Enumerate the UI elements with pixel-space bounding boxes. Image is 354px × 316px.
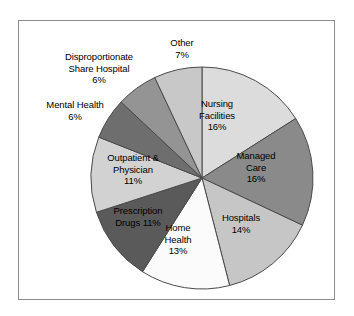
- slice-label-nursing-facilities: Nursing Facilities 16%: [186, 98, 248, 133]
- slice-label-prescription-drugs: Prescription Drugs 11%: [103, 205, 173, 228]
- figure-container: Nursing Facilities 16% Managed Care 16% …: [0, 0, 354, 316]
- pie-chart: Nursing Facilities 16% Managed Care 16% …: [0, 0, 354, 316]
- slice-label-mental-health: Mental Health 6%: [30, 99, 120, 122]
- slice-label-hospitals: Hospitals 14%: [212, 212, 270, 235]
- slice-label-managed-care: Managed Care 16%: [226, 150, 286, 185]
- slice-label-other: Other 7%: [157, 37, 207, 60]
- slice-label-outpatient-physician: Outpatient & Physician 11%: [97, 152, 169, 187]
- slice-label-disproportionate-share-hospital: Disproportionate Share Hospital 6%: [48, 51, 150, 86]
